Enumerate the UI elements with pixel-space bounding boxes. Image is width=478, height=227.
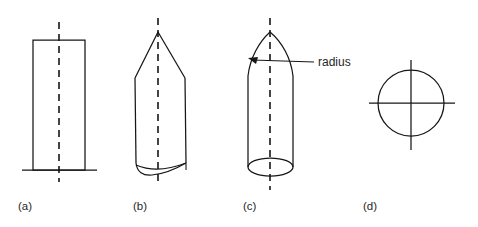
figure-b-cone-left-flank: [135, 32, 158, 78]
figure-b-conical-nose: [135, 18, 186, 186]
projectile-nose-shapes-diagram: radius (a) (b) (c) (d): [0, 0, 478, 227]
caption-figure-a: (a): [18, 200, 32, 212]
figure-c-ogive-right-curve: [270, 32, 293, 76]
radius-leader-line: [252, 60, 314, 62]
caption-figure-d: (d): [363, 200, 377, 212]
radius-label: radius: [318, 55, 351, 69]
caption-figure-c: (c): [243, 200, 257, 212]
figure-d-circle-with-crosshair: [369, 60, 455, 150]
figure-c-ogive-left-curve: [248, 32, 270, 76]
figure-a-flat-nose-cylinder: [22, 22, 97, 182]
figure-c-ogive-nose-cylinder: radius: [248, 18, 351, 190]
caption-figure-b: (b): [133, 200, 147, 212]
figure-b-base-inner-edge: [136, 163, 186, 169]
figure-b-body-left-edge: [135, 78, 136, 163]
figure-b-body-right-edge: [185, 78, 186, 163]
figure-b-cone-right-flank: [158, 32, 185, 78]
radius-arrowhead-icon: [248, 57, 258, 64]
